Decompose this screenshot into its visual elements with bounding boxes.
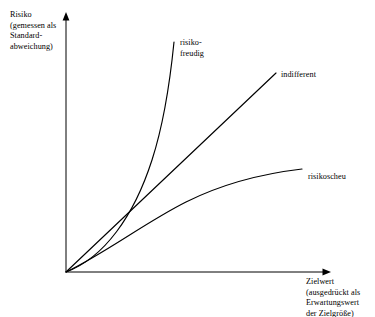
- curve-indifferent: [66, 73, 276, 272]
- risk-preference-chart: Risiko (gemessen als Standard- abweichun…: [0, 0, 375, 317]
- x-axis-title: Zielwert (ausgedrückt als Erwartungswert…: [306, 277, 375, 317]
- y-axis-title: Risiko (gemessen als Standard- abweichun…: [10, 10, 70, 52]
- curve-risikofreudig: [66, 42, 174, 272]
- curve-label-indifferent: indifferent: [281, 70, 316, 81]
- curve-risikoscheu: [66, 169, 302, 272]
- curve-label-risikoscheu: risikoscheu: [308, 172, 346, 183]
- x-axis-arrowhead: [323, 269, 332, 276]
- curve-label-risikofreudig: risiko- freudig: [180, 38, 204, 59]
